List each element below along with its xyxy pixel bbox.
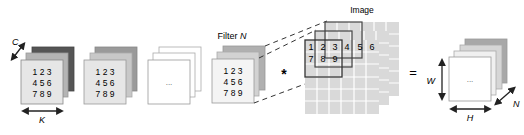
image-value: 5 bbox=[357, 42, 362, 52]
filter-stack-2: 1 2 3 4 5 6 7 8 9 bbox=[84, 47, 137, 104]
filter-stack-1: 1 2 3 4 5 6 7 8 9 C K bbox=[12, 37, 74, 125]
image-volume: Image 1 2 3 4 5 6 7 8 9 bbox=[305, 5, 399, 114]
width-label-k: K bbox=[39, 115, 46, 125]
depth-label-n: N bbox=[513, 99, 520, 109]
convolution-diagram: 1 2 3 4 5 6 7 8 9 C K 1 2 3 4 5 6 7 8 9 … bbox=[0, 0, 524, 135]
depth-label-c: C bbox=[12, 37, 19, 47]
ellipsis: ... bbox=[467, 75, 474, 84]
image-value: 6 bbox=[369, 42, 374, 52]
filter-row-2: 4 5 6 bbox=[33, 78, 52, 88]
filter-row-2: 4 5 6 bbox=[224, 77, 243, 87]
image-value: 1 bbox=[308, 42, 313, 52]
equals-operator: = bbox=[409, 65, 417, 80]
filter-row-1: 1 2 3 bbox=[33, 67, 52, 77]
output-stack: ... W H N bbox=[427, 39, 521, 123]
filter-row-1: 1 2 3 bbox=[224, 66, 243, 76]
width-label-h: H bbox=[467, 113, 474, 123]
image-value: 3 bbox=[332, 42, 337, 52]
image-value: 8 bbox=[320, 54, 325, 64]
image-label: Image bbox=[350, 5, 374, 15]
image-value: 2 bbox=[320, 42, 325, 52]
image-value: 7 bbox=[308, 54, 313, 64]
ellipsis: ... bbox=[166, 78, 173, 87]
height-label-w: W bbox=[427, 76, 437, 86]
filter-stack-3: ... bbox=[148, 47, 201, 104]
filter-row-1: 1 2 3 bbox=[96, 67, 115, 77]
depth-arrow-icon bbox=[497, 89, 513, 103]
filter-row-3: 7 8 9 bbox=[96, 89, 115, 99]
filter-n-label: Filter N bbox=[218, 31, 248, 41]
image-value: 4 bbox=[344, 42, 349, 52]
convolution-operator: * bbox=[281, 66, 287, 82]
filter-row-3: 7 8 9 bbox=[33, 89, 52, 99]
filter-row-2: 4 5 6 bbox=[96, 78, 115, 88]
image-value: 9 bbox=[332, 54, 337, 64]
filter-row-3: 7 8 9 bbox=[224, 88, 243, 98]
